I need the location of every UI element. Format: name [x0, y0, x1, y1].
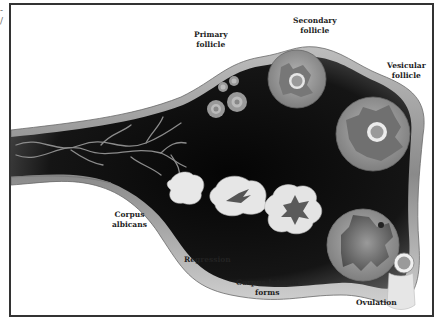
diagram-frame: Primary follicle Secondary follicle Vesi…: [9, 3, 434, 317]
ovary-illustration: [11, 5, 432, 315]
ruptured-follicle: [327, 209, 399, 281]
secondary-follicle: [268, 50, 326, 108]
label-corpus-luteum-forms: Corpus luteum forms: [236, 278, 298, 298]
label-ovulation: Ovulation: [356, 298, 397, 308]
label-corpus-albicans: Corpus albicans: [112, 210, 147, 230]
vesicular-follicle: [336, 97, 410, 171]
corner-mark-top: -: [0, 6, 3, 15]
corner-mark-bottom: /: [0, 17, 3, 26]
label-primary-follicle: Primary follicle: [194, 30, 228, 50]
label-vesicular-follicle: Vesicular follicle: [387, 61, 426, 81]
label-secondary-follicle: Secondary follicle: [293, 16, 337, 36]
label-regression: Regression: [184, 255, 231, 265]
